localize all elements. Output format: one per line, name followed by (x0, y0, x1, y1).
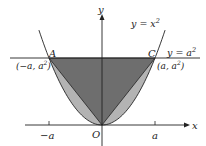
y-axis-label: y (97, 4, 104, 15)
diagram-canvas: y x O −a a y = x2 y = a2 A C (−a, a2) (a… (0, 0, 206, 146)
point-C-label: C (148, 48, 156, 59)
origin-label: O (92, 129, 100, 140)
point-C-coordinates: (a, a2) (157, 59, 185, 71)
x-axis-arrow-icon (184, 123, 190, 128)
x-axis-label: x (192, 120, 198, 131)
point-A-coordinates: (−a, a2) (16, 59, 51, 71)
tick-label-neg-a: −a (40, 130, 54, 141)
point-A-label: A (48, 48, 56, 59)
line-label: y = a2 (166, 46, 196, 58)
parabola-label: y = x2 (130, 17, 160, 29)
tick-label-pos-a: a (152, 130, 158, 141)
